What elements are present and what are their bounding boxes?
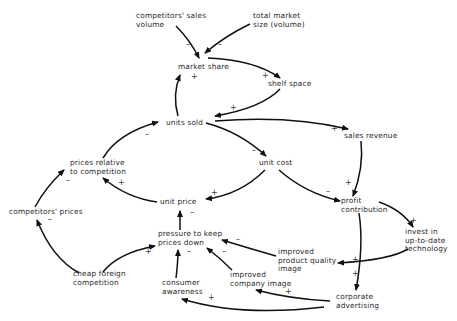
node-label-line: technology	[405, 244, 448, 253]
edge-cheap-foreign-to-competitors-prices	[37, 220, 79, 273]
node-label-line: units sold	[166, 118, 203, 127]
edge-prices-relative-to-units-sold	[103, 122, 158, 158]
node-sales-revenue: sales revenue	[344, 131, 398, 140]
node-label-line: contribution	[341, 205, 388, 214]
edge-sign: +	[345, 178, 352, 187]
node-label-line: size (volume)	[253, 20, 305, 29]
node-unit-cost: unit cost	[259, 158, 292, 167]
node-label-line: to competition	[70, 167, 126, 176]
node-label-line: competition	[73, 278, 119, 287]
node-profit-contribution: profitcontribution	[341, 196, 388, 214]
node-label-line: advertising	[336, 301, 379, 310]
edge-sign: –	[190, 208, 194, 217]
node-label-line: shelf space	[268, 79, 312, 88]
node-label-line: awareness	[162, 287, 203, 296]
edge-sign: –	[186, 40, 190, 49]
nodes-layer: competitors' salesvolumetotal marketsize…	[9, 11, 448, 310]
node-cheap-foreign: cheap foreigncompetition	[73, 269, 126, 287]
edge-sign: –	[218, 40, 222, 49]
edge-corporate-advertising-to-consumer-awareness	[182, 299, 324, 311]
edge-invest-technology-to-improved-product-quality	[338, 249, 408, 263]
edge-sign: +	[352, 269, 359, 278]
causal-loop-diagram: ––++++––++–+––+––––+++++ competitors' sa…	[0, 0, 457, 321]
edge-improved-company-image-to-pressure-prices-down	[207, 248, 232, 270]
edge-improved-product-quality-to-pressure-prices-down	[222, 240, 276, 256]
node-competitors-sales-volume: competitors' salesvolume	[136, 11, 206, 29]
edge-sign: +	[208, 293, 215, 302]
edge-units-sold-to-market-share	[175, 75, 180, 116]
node-competitors-prices: competitors' prices	[9, 207, 83, 216]
node-shelf-space: shelf space	[268, 79, 312, 88]
edge-competitors-prices-to-prices-relative	[35, 170, 64, 207]
edge-sign: +	[145, 247, 152, 256]
edge-unit-cost-to-profit-contribution	[279, 170, 340, 201]
node-prices-relative: prices relativeto competition	[70, 158, 126, 176]
edge-corporate-advertising-to-improved-company-image	[256, 290, 330, 301]
edge-sign: +	[211, 188, 218, 197]
node-consumer-awareness: consumerawareness	[162, 278, 203, 296]
edge-units-sold-to-unit-cost	[206, 123, 266, 156]
node-label-line: unit cost	[259, 158, 292, 167]
edge-shelf-space-to-units-sold	[215, 89, 280, 116]
edge-total-market-size-to-market-share	[205, 24, 250, 53]
node-units-sold: units sold	[166, 118, 203, 127]
edge-sign: +	[191, 72, 198, 81]
node-market-share: market share	[178, 62, 229, 71]
edge-sign: +	[352, 255, 359, 264]
node-improved-product-quality: improvedproduct qualityimage	[278, 247, 337, 273]
edge-sign: –	[48, 215, 52, 224]
node-total-market-size: total marketsize (volume)	[253, 11, 305, 29]
node-label-line: volume	[136, 20, 165, 29]
node-label-line: company image	[230, 279, 292, 288]
edge-sign: –	[187, 247, 191, 256]
node-label-line: unit price	[160, 197, 197, 206]
node-pressure-prices-down: pressure to keepprices down	[158, 229, 222, 247]
edge-sign: +	[331, 124, 338, 133]
edge-sign: +	[230, 103, 237, 112]
edge-sign: +	[118, 178, 125, 187]
node-label-line: competitors' prices	[9, 207, 83, 216]
node-label-line: sales revenue	[344, 131, 398, 140]
edge-sign: –	[222, 247, 226, 256]
edge-sign: –	[326, 187, 330, 196]
edge-sign: –	[236, 235, 240, 244]
node-corporate-advertising: corporateadvertising	[336, 292, 379, 310]
edge-sign: –	[66, 176, 70, 185]
edge-units-sold-to-sales-revenue	[215, 119, 348, 129]
node-label-line: prices down	[158, 238, 204, 247]
node-label-line: image	[278, 264, 302, 273]
node-unit-price: unit price	[160, 197, 197, 206]
edge-profit-contribution-to-corporate-advertising	[356, 213, 361, 290]
node-invest-technology: invest inup-to-datetechnology	[405, 227, 448, 253]
edge-sign: –	[145, 130, 149, 139]
node-label-line: market share	[178, 62, 229, 71]
edge-sign: +	[285, 287, 292, 296]
edge-sign: –	[252, 146, 256, 155]
edge-unit-price-to-prices-relative	[103, 178, 157, 202]
edge-consumer-awareness-to-pressure-prices-down	[176, 250, 178, 278]
edge-sign: +	[410, 216, 417, 225]
edge-sales-revenue-to-profit-contribution	[353, 141, 362, 196]
